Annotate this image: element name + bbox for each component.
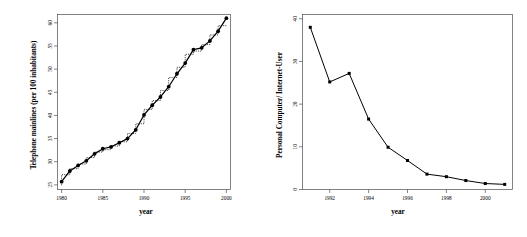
right-y-axis-title-text: Personal Computer/ Internet-User [276,51,284,158]
y-tick-label: 60 [47,20,53,26]
y-tick-label: 55 [47,43,53,49]
right-x-tick-group: 19921994199619982000 [324,190,491,201]
y-tick-label: 0 [292,188,298,191]
data-point [101,147,105,151]
data-point [348,72,351,75]
series-step-line [62,26,227,186]
data-point [445,175,448,178]
left-x-tick-group: 19801985199019952000 [56,190,232,201]
data-point [484,182,487,185]
data-point [309,26,312,29]
y-tick-label: 50 [47,66,53,72]
y-tick-label: 10 [292,144,298,150]
left-y-axis-title-text: Telephone mainlines (per 100 inhabitants… [30,40,38,169]
telephone-mainlines-svg: Telephone mainlines (per 100 inhabitants… [0,0,263,237]
y-tick-label: 40 [47,112,53,118]
x-tick-label: 1998 [441,195,452,201]
left-y-tick-group: 2530354045505560 [47,20,57,188]
right-series-group [309,26,506,186]
x-tick-label: 1996 [402,195,413,201]
left-plot-box [58,15,231,190]
x-tick-label: 1990 [139,195,150,201]
x-tick-label: 1992 [324,195,335,201]
data-point [464,179,467,182]
data-point [425,173,428,176]
x-tick-label: 1980 [56,195,67,201]
y-tick-label: 30 [292,58,298,64]
data-point [367,118,370,121]
data-point [117,141,121,145]
y-tick-label: 40 [292,16,298,22]
left-x-axis-title: year [139,208,153,216]
right-x-axis-title-text: year [391,208,405,216]
figure-container: Telephone mainlines (per 100 inhabitants… [0,0,527,237]
x-tick-label: 1994 [363,195,374,201]
x-tick-label: 1995 [180,195,191,201]
right-y-axis-title: Personal Computer/ Internet-User [276,51,284,158]
chart-panel-telephone-mainlines: Telephone mainlines (per 100 inhabitants… [0,0,263,237]
y-tick-label: 35 [47,136,53,142]
y-tick-label: 20 [292,101,298,107]
data-point [224,16,228,20]
x-tick-label: 2000 [480,195,491,201]
y-tick-label: 25 [47,182,53,188]
y-tick-label: 45 [47,89,53,95]
series-line [62,18,227,181]
data-point [406,159,409,162]
right-plot-box [303,15,513,190]
left-y-axis-title: Telephone mainlines (per 100 inhabitants… [30,40,38,169]
right-y-tick-group: 010203040 [292,16,302,191]
y-tick-label: 30 [47,159,53,165]
left-series-group [60,16,229,185]
data-point [192,48,196,52]
data-point [503,183,506,186]
x-tick-label: 1985 [98,195,109,201]
pc-internet-user-svg: Personal Computer/ Internet-User year 01… [264,0,527,237]
right-x-axis-title: year [391,208,405,216]
x-tick-label: 2000 [221,195,232,201]
chart-panel-pc-internet-user: Personal Computer/ Internet-User year 01… [264,0,527,237]
left-x-axis-title-text: year [139,208,153,216]
data-point [387,146,390,149]
data-point [328,80,331,83]
